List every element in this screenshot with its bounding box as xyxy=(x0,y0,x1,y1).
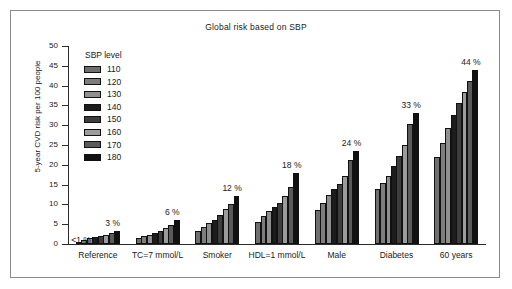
x-axis-spine xyxy=(68,244,486,245)
bar-value-label: 3 % xyxy=(96,218,130,228)
x-axis-group-label: Reference xyxy=(65,250,130,260)
x-axis-group-label: TC=7 mmol/L xyxy=(125,250,190,260)
bar[interactable] xyxy=(413,113,419,244)
bar-value-label: 33 % xyxy=(394,100,428,110)
bar-group xyxy=(375,46,419,244)
chart-legend: SBP level 110120130140150160170180 xyxy=(84,50,150,164)
legend-item-label: 150 xyxy=(107,115,121,124)
legend-swatch-icon xyxy=(84,129,101,136)
legend-item-label: 160 xyxy=(107,128,121,137)
legend-swatch-icon xyxy=(84,104,101,111)
legend-swatch-icon xyxy=(84,154,101,161)
bar-value-label: 18 % xyxy=(275,160,309,170)
legend-title: SBP level xyxy=(85,50,150,60)
bar-value-label: 24 % xyxy=(335,138,369,148)
legend-entries: 110120130140150160170180 xyxy=(84,63,150,164)
bar-value-label: <1 % xyxy=(66,235,96,245)
x-axis-group-label: HDL=1 mmol/L xyxy=(244,250,309,260)
legend-swatch-icon xyxy=(84,78,101,85)
legend-swatch-icon xyxy=(84,116,101,123)
y-axis-title: 5-year CVD risk per 100 people xyxy=(33,17,42,217)
legend-item[interactable]: 120 xyxy=(84,76,150,89)
legend-item[interactable]: 110 xyxy=(84,63,150,76)
legend-swatch-icon xyxy=(84,141,101,148)
legend-item-label: 140 xyxy=(107,103,121,112)
legend-item-label: 110 xyxy=(107,65,121,74)
legend-item-label: 120 xyxy=(107,78,121,87)
bar[interactable] xyxy=(234,196,240,244)
bar[interactable] xyxy=(293,173,299,244)
chart-figure: Global risk based on SBP 051015202530354… xyxy=(0,0,512,289)
legend-swatch-icon xyxy=(84,91,101,98)
bar-value-label: 12 % xyxy=(215,183,249,193)
legend-swatch-icon xyxy=(84,66,101,73)
legend-item[interactable]: 180 xyxy=(84,151,150,164)
legend-item[interactable]: 130 xyxy=(84,88,150,101)
bar-group xyxy=(195,46,239,244)
bar[interactable] xyxy=(472,70,478,244)
bar-value-label: 44 % xyxy=(454,57,488,67)
x-axis-group-label: Smoker xyxy=(185,250,250,260)
legend-item[interactable]: 150 xyxy=(84,113,150,126)
x-axis-group-label: Diabetes xyxy=(364,250,429,260)
legend-item[interactable]: 170 xyxy=(84,139,150,152)
legend-item[interactable]: 140 xyxy=(84,101,150,114)
bar-group xyxy=(434,46,478,244)
bar-value-label: 6 % xyxy=(155,207,189,217)
x-axis-group-label: Male xyxy=(304,250,369,260)
bar[interactable] xyxy=(114,231,120,244)
chart-title: Global risk based on SBP xyxy=(0,22,512,32)
bar[interactable] xyxy=(174,220,180,244)
legend-item-label: 180 xyxy=(107,153,121,162)
y-axis-tick-label: 5 xyxy=(32,219,58,228)
bar[interactable] xyxy=(353,151,359,244)
legend-item[interactable]: 160 xyxy=(84,126,150,139)
x-axis-group-label: 60 years xyxy=(424,250,489,260)
legend-item-label: 130 xyxy=(107,90,121,99)
bar-group xyxy=(255,46,299,244)
legend-item-label: 170 xyxy=(107,141,121,150)
y-axis-tick-label: 0 xyxy=(32,239,58,248)
